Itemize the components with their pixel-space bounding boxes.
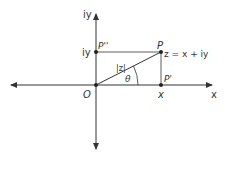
y-axis-label: iy	[83, 9, 92, 20]
point-p-prime-label: P'	[164, 74, 172, 84]
argand-diagram: iy x O P P'' P' z = x + iy |z| θ x iy	[0, 0, 228, 169]
iy-tick-label: iy	[82, 47, 91, 58]
angle-arc	[134, 66, 139, 85]
x-axis-label: x	[211, 89, 217, 100]
modulus-label: |z|	[116, 64, 126, 73]
point-p-prime	[159, 83, 163, 87]
origin-point	[94, 83, 98, 87]
origin-label: O	[83, 89, 91, 100]
z-expression-label: z = x + iy	[164, 49, 209, 59]
angle-theta-label: θ	[125, 74, 131, 84]
point-p-double-prime-label: P''	[98, 41, 108, 51]
x-tick-label: x	[157, 89, 164, 100]
point-p-label: P	[157, 40, 164, 51]
